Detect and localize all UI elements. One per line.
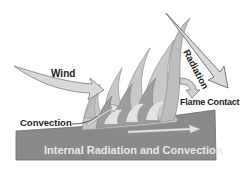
wind-label: Wind [51, 69, 75, 79]
convection-label: Convection [20, 118, 72, 128]
internal-radiation-convection-label: Internal Radiation and Convection [44, 145, 222, 156]
heat-transfer-diagram: Wind Radiation Flame Contact Convection … [0, 0, 246, 178]
flame-contact-label: Flame Contact [180, 98, 239, 107]
flames [82, 18, 190, 130]
